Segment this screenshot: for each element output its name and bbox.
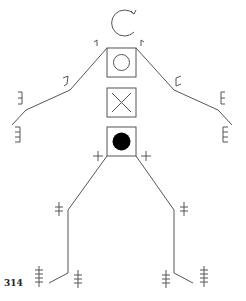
right-knee-mark [180,202,188,216]
right-leg [136,156,193,283]
right-arm [136,48,232,125]
left-arm [12,48,107,125]
chest-box [107,48,136,77]
left-elbow-mark [63,76,68,86]
right-ankle-mark [162,270,170,288]
x-icon [112,93,131,112]
left-shoulder-mark [94,40,97,46]
left-wrist-mark [18,92,22,104]
body-diagram [0,0,246,301]
right-hand-mark [223,127,228,142]
filled-circle-icon [113,133,131,151]
right-wrist-mark [221,92,225,104]
left-hand-mark [15,127,20,142]
left-hip-mark [93,151,103,161]
right-shoulder-mark [141,40,144,46]
right-elbow-mark [176,76,181,86]
left-leg [49,156,107,283]
right-foot-mark [200,266,208,287]
head-icon [112,10,134,36]
page-number: 314 [4,278,23,288]
left-foot-mark [35,266,43,287]
circle-icon [114,55,130,71]
left-ankle-mark [74,270,82,288]
right-hip-mark [141,151,151,161]
left-knee-mark [55,202,63,216]
